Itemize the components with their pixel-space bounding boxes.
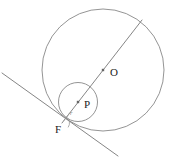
diameter-line-through-F-P-O	[62, 20, 142, 123]
radius-label-r: r	[70, 110, 73, 116]
figure-canvas: O P F r	[0, 0, 172, 163]
tangent-line-at-F	[2, 73, 118, 156]
point-label-P: P	[84, 98, 90, 110]
point-label-F: F	[55, 123, 61, 135]
geometry-figure: O P F r	[0, 0, 172, 163]
point-dot-P	[77, 101, 79, 103]
point-label-O: O	[110, 66, 118, 78]
point-dot-O	[102, 69, 104, 71]
